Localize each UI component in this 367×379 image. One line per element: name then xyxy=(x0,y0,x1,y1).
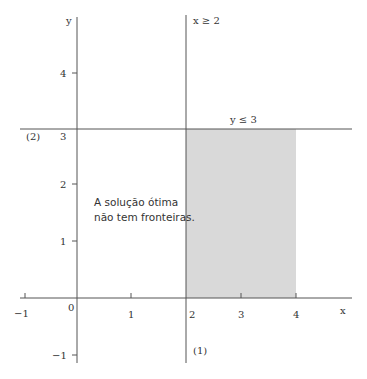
constraint2-id: (2) xyxy=(26,131,40,142)
y-axis-label: y xyxy=(65,15,72,26)
x-axis-label: x xyxy=(340,305,346,316)
x-tick-label: 1 xyxy=(128,309,134,320)
y-tick-label: 1 xyxy=(60,236,66,247)
y-tick-label: 4 xyxy=(60,68,66,79)
lp-diagram: y x 0 −1 1 2 3 4 4 3 2 1 −1 x ≥ 2 (1) y … xyxy=(0,0,367,379)
x-tick-label: 3 xyxy=(238,309,244,320)
x-tick-label: 4 xyxy=(293,309,299,320)
x-tick-label: −1 xyxy=(14,308,29,319)
constraint2-text: y ≤ 3 xyxy=(229,114,257,125)
x-tick-label: 2 xyxy=(189,309,195,320)
annotation-line1: A solução ótima xyxy=(94,196,178,208)
shaded-region xyxy=(186,129,296,298)
constraint1-text: x ≥ 2 xyxy=(193,15,220,26)
y-tick-label: −1 xyxy=(52,350,67,361)
constraint1-id: (1) xyxy=(193,345,207,356)
annotation-line2: não tem fronteiras. xyxy=(94,211,195,223)
origin-label: 0 xyxy=(68,302,74,313)
y-tick-label: 2 xyxy=(60,179,66,190)
y-tick-label: 3 xyxy=(60,131,66,142)
